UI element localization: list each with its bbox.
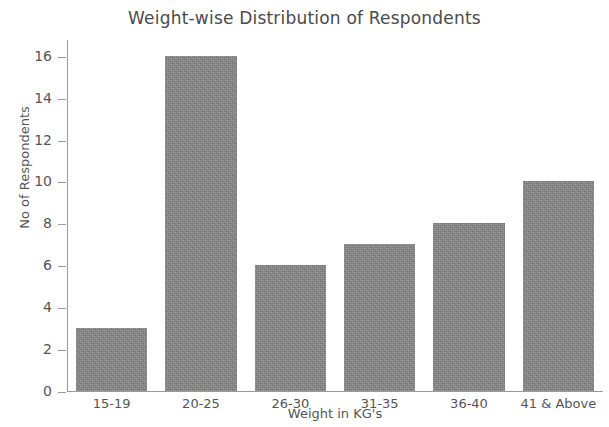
y-tick-12: 12 — [58, 141, 66, 142]
bar-chart-figure: Weight-wise Distribution of Respondents … — [0, 0, 609, 427]
y-tick-2: 2 — [58, 350, 66, 351]
bar-31-35 — [344, 244, 415, 391]
bar-20-25 — [165, 56, 236, 391]
x-axis-label: Weight in KG's — [67, 406, 603, 421]
y-tick-label: 2 — [43, 341, 52, 357]
y-tick-label: 10 — [34, 173, 52, 189]
y-tick-label: 16 — [34, 48, 52, 64]
y-tick-14: 14 — [58, 99, 66, 100]
y-tick-0: 0 — [58, 392, 66, 393]
y-axis-label: No of Respondents — [17, 58, 32, 278]
y-tick-label: 6 — [43, 257, 52, 273]
plot-area: 0246810121416 15-1920-2526-3031-3536-404… — [67, 40, 603, 392]
y-tick-label: 0 — [43, 383, 52, 399]
bar-26-30 — [255, 265, 326, 391]
bar-41-above — [523, 181, 594, 391]
y-tick-label: 12 — [34, 132, 52, 148]
y-tick-8: 8 — [58, 224, 66, 225]
x-axis-spine — [67, 391, 603, 392]
y-tick-4: 4 — [58, 308, 66, 309]
y-tick-label: 14 — [34, 90, 52, 106]
y-tick-label: 8 — [43, 215, 52, 231]
bar-15-19 — [76, 328, 147, 391]
y-tick-16: 16 — [58, 57, 66, 58]
y-axis-spine — [67, 40, 68, 392]
y-tick-10: 10 — [58, 182, 66, 183]
chart-title: Weight-wise Distribution of Respondents — [0, 8, 609, 28]
y-tick-6: 6 — [58, 266, 66, 267]
bar-36-40 — [433, 223, 504, 391]
y-tick-label: 4 — [43, 299, 52, 315]
